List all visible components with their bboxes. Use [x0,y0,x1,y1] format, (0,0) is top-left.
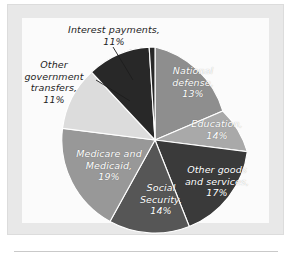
pie-label-medicare-and-medicaid: Medicare and Medicaid, 19% [68,148,150,183]
pie-chart-screenshot: Interest payments, 11% Other government … [0,0,291,262]
pie-label-interest-payments: Interest payments, 11% [55,24,173,47]
pie-label-education: Education, 14% [182,118,252,141]
bottom-divider [14,251,278,252]
pie-label-other-government-transfers: Other government transfers, 11% [12,59,96,105]
pie-chart: Interest payments, 11% Other government … [0,0,291,262]
pie-label-national-defense: National defense, 13% [162,65,224,100]
pie-label-other-goods-and-services: Other goods and services, 17% [180,164,254,199]
pie-label-social-security: Social Security, 14% [133,182,189,217]
